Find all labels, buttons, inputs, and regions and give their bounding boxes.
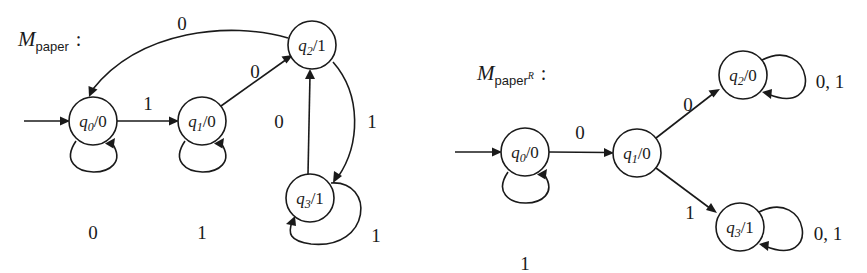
edge-label-q3-self-right: 0, 1 (814, 223, 843, 244)
machine-name-right: MpaperR: (476, 61, 546, 88)
state-q1-left-output: 0 (207, 112, 216, 131)
machine-name-right-colon: : (541, 62, 547, 84)
machine-name-right-base: M (476, 61, 496, 85)
state-q0-left-output: 0 (98, 112, 107, 131)
transition-q0-q1-right (549, 148, 614, 157)
svg-text:q1/0: q1/0 (188, 112, 216, 134)
edge-label-q2-q0-left: 0 (177, 13, 187, 34)
self-loop-q2-right (762, 55, 805, 99)
transition-q2-q3-left (333, 62, 355, 183)
svg-text:q3/1: q3/1 (296, 189, 324, 211)
state-q2-left-output: 1 (317, 36, 326, 55)
self-loop-q3-right (759, 207, 802, 251)
machine-m-paper: q0/0 q1/0 q2/1 q3/1 (17, 13, 381, 246)
edge-label-q3-q2-left: 0 (274, 111, 284, 132)
figure-canvas: q0/0 q1/0 q2/1 q3/1 (0, 0, 867, 273)
transition-q0-q1-left (117, 117, 179, 126)
state-node-q2-left[interactable]: q2/1 (288, 21, 336, 69)
state-node-q0-right[interactable]: q0/0 (501, 128, 549, 176)
svg-text:q1/0: q1/0 (623, 144, 651, 166)
edge-label-q0-q1-left: 1 (143, 93, 153, 114)
state-node-q3-left[interactable]: q3/1 (286, 174, 334, 222)
edge-label-q3-self-left: 1 (371, 225, 381, 246)
svg-text:q3/1: q3/1 (726, 218, 754, 240)
edge-label-q1-q3-right: 1 (685, 202, 695, 223)
state-node-q1-right[interactable]: q1/0 (613, 129, 661, 177)
machine-name-left-colon: : (76, 28, 82, 50)
edge-label-q0-q1-right: 0 (575, 122, 585, 143)
start-arrow-right (455, 148, 502, 157)
finite-state-machine-diagram: q0/0 q1/0 q2/1 q3/1 (0, 0, 867, 273)
transition-q3-q2-left (305, 69, 315, 174)
edge-label-q2-self-right: 0, 1 (816, 71, 845, 92)
machine-m-paper-r: q0/0 q1/0 q2/0 q3/1 (455, 51, 844, 273)
state-q2-right-output: 0 (748, 66, 757, 85)
svg-text:q2/0: q2/0 (729, 66, 757, 88)
edge-label-q2-q3-left: 1 (367, 111, 377, 132)
edge-label-q0-self-left: 0 (88, 222, 98, 243)
svg-text:q2/1: q2/1 (298, 36, 326, 58)
machine-name-right-subscript: paper (495, 73, 529, 88)
edge-label-q1-q2-right: 0 (683, 94, 693, 115)
svg-text:q0/0: q0/0 (511, 143, 539, 165)
state-q3-left-output: 1 (315, 189, 324, 208)
machine-name-right-superscript: R (527, 70, 534, 81)
start-arrow-left (24, 117, 70, 126)
state-q3-left-index: 3 (304, 197, 311, 211)
svg-text:q0/0: q0/0 (79, 112, 107, 134)
state-q1-right-output: 0 (642, 144, 651, 163)
state-node-q3-right[interactable]: q3/1 (716, 203, 764, 251)
machine-name-left-base: M (17, 27, 37, 51)
state-node-q2-right[interactable]: q2/0 (719, 51, 767, 99)
state-q3-right-index: 3 (734, 226, 741, 240)
state-q0-right-output: 0 (530, 143, 539, 162)
edge-label-q1-q2-left: 0 (250, 61, 260, 82)
edge-label-q1-self-left: 1 (197, 222, 207, 243)
edge-label-q0-self-right: 1 (520, 253, 530, 273)
machine-name-left: Mpaper: (17, 27, 81, 54)
state-node-q0-left[interactable]: q0/0 (69, 97, 117, 145)
machine-name-left-subscript: paper (36, 39, 70, 54)
state-q3-right-output: 1 (745, 218, 754, 237)
state-node-q1-left[interactable]: q1/0 (178, 97, 226, 145)
